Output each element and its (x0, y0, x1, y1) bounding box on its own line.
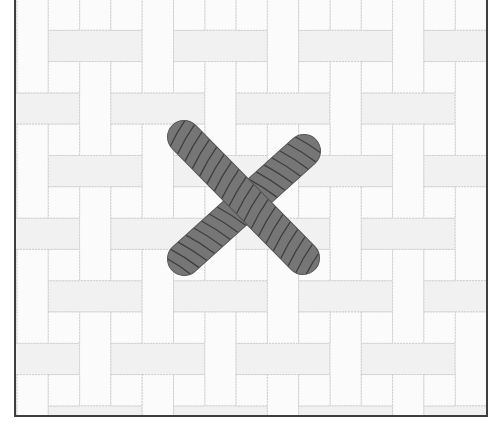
crossed-sticks (16, 0, 486, 415)
bar-backslash (149, 102, 356, 311)
scene-frame: Crossed rope sticks on basketweave tile … (14, 0, 488, 417)
